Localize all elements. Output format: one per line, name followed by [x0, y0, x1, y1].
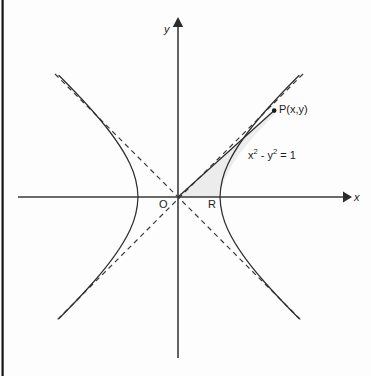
scan-edge-artifact [2, 0, 4, 376]
hyperbola-equation-label: x2 - y2 = 1 [248, 150, 296, 161]
equation-equals-value: = 1 [280, 149, 296, 161]
canvas-background [0, 0, 371, 376]
point-p-marker [272, 108, 277, 113]
x-axis-label: x [354, 192, 360, 203]
hyperbola-diagram [0, 0, 371, 376]
equation-term2-exponent: 2 [273, 147, 277, 156]
point-p-label: P(x,y) [279, 104, 308, 115]
origin-label: O [159, 199, 168, 210]
y-axis-label: y [164, 24, 170, 35]
point-r-label: R [208, 199, 216, 210]
figure-canvas: y x O R P(x,y) x2 - y2 = 1 [0, 0, 371, 376]
equation-term1-exponent: 2 [254, 147, 258, 156]
equation-minus-sign: - [261, 149, 265, 161]
